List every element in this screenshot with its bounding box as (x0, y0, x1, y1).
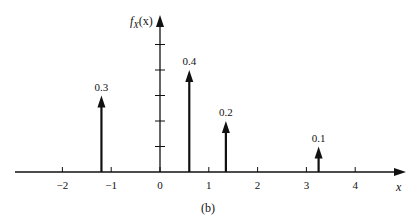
x-tick-label: 1 (206, 179, 212, 191)
stem-3: 0.1 (312, 132, 326, 173)
stem-1: 0.4 (182, 55, 196, 172)
x-tick-label: 2 (255, 179, 261, 191)
x-tick-label: 0 (157, 179, 163, 191)
stem-2: 0.2 (219, 106, 233, 172)
stem-value-label: 0.1 (312, 132, 326, 144)
stem-arrow-icon (185, 70, 193, 82)
stem-value-label: 0.2 (219, 106, 233, 118)
x-tick-label: 3 (304, 179, 310, 191)
stems: 0.30.40.20.1 (95, 55, 326, 172)
chart-svg: x fX(x) −2−101234 0.30.40.20.1 (b) (0, 0, 416, 221)
stem-value-label: 0.4 (182, 55, 196, 67)
pdf-stem-chart: x fX(x) −2−101234 0.30.40.20.1 (b) (0, 0, 416, 221)
y-axis-label: fX(x) (130, 14, 153, 30)
stem-value-label: 0.3 (95, 81, 109, 93)
x-axis-label: x (395, 180, 402, 194)
x-axis-arrow-icon (394, 168, 406, 176)
stem-arrow-icon (97, 96, 105, 108)
stem-arrow-icon (315, 147, 323, 159)
figure-caption: (b) (201, 201, 215, 215)
stem-0: 0.3 (95, 81, 109, 173)
x-tick-label: −2 (57, 179, 69, 191)
y-axis-arrow-icon (156, 15, 164, 27)
stem-arrow-icon (222, 121, 230, 133)
x-tick-label: −1 (105, 179, 117, 191)
x-tick-label: 4 (352, 179, 358, 191)
